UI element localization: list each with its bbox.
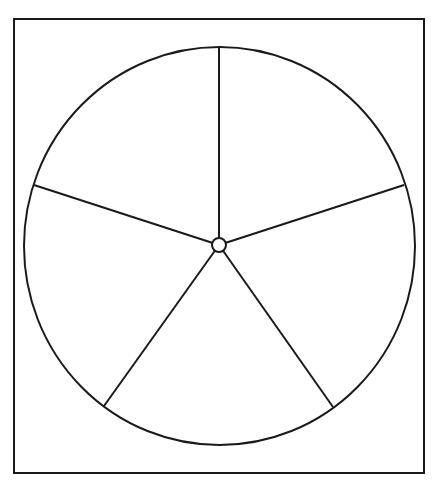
center-hub [212, 238, 226, 252]
five-section-circle-diagram [0, 0, 435, 480]
